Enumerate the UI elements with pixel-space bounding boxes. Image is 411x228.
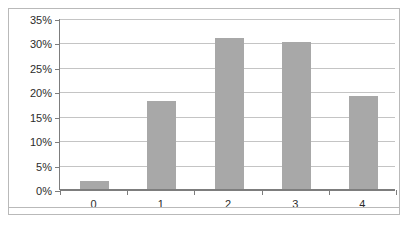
bar-slot	[330, 18, 397, 189]
bar-slot	[195, 18, 262, 189]
bar-slot	[61, 18, 128, 189]
y-axis-tick	[55, 44, 60, 45]
y-axis-label: 10%	[30, 136, 52, 148]
y-axis-tick	[55, 93, 60, 94]
y-axis-tick	[55, 118, 60, 119]
y-axis-label: 30%	[30, 38, 52, 50]
bar-0[interactable]	[80, 181, 109, 189]
x-axis-label-0: 0	[60, 195, 127, 215]
y-axis-label: 35%	[30, 14, 52, 26]
y-axis-tick	[55, 69, 60, 70]
y-axis-label: 20%	[30, 87, 52, 99]
x-axis-label-1: 1	[127, 195, 194, 215]
y-axis-tick	[55, 20, 60, 21]
x-axis-labels: 01234	[60, 195, 396, 215]
bar-2[interactable]	[215, 38, 244, 189]
bar-slot	[263, 18, 330, 189]
y-axis-label: 5%	[36, 161, 52, 173]
bar-1[interactable]	[147, 101, 176, 189]
plot-area: 0%5%10%15%20%25%30%35%	[59, 19, 395, 190]
chart-frame: 0%5%10%15%20%25%30%35% 01234	[8, 8, 400, 215]
y-axis-label: 0%	[36, 185, 52, 197]
x-axis-label-4: 4	[329, 195, 396, 215]
x-axis-tick	[396, 190, 397, 195]
x-axis-rule	[9, 207, 399, 208]
bar-slot	[128, 18, 195, 189]
x-axis-label-2: 2	[194, 195, 261, 215]
bar-series	[61, 18, 397, 189]
y-axis-tick	[55, 142, 60, 143]
y-axis-label: 15%	[30, 112, 52, 124]
y-axis-label: 25%	[30, 63, 52, 75]
bar-4[interactable]	[349, 96, 378, 189]
bar-3[interactable]	[282, 42, 311, 189]
y-axis-tick	[55, 167, 60, 168]
x-axis-label-3: 3	[262, 195, 329, 215]
